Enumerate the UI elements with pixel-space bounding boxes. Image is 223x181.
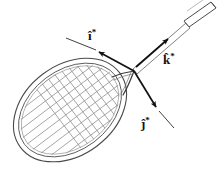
vector-label-j-hat-star: ĵ* xyxy=(141,116,150,130)
label-j-star: * xyxy=(145,115,150,125)
label-k-star: * xyxy=(170,51,175,61)
racket-vector-diagram: î* k̂* ĵ* xyxy=(0,0,223,181)
racket-diagram-canvas xyxy=(0,0,223,181)
label-i-star: * xyxy=(92,27,97,37)
vector-label-i-hat-star: î* xyxy=(88,28,96,42)
vector-label-k-hat-star: k̂* xyxy=(163,52,175,66)
vector-j-hat-star xyxy=(134,71,174,128)
vector-j-hat-star-shaft xyxy=(134,71,156,107)
shaft-body xyxy=(133,23,190,74)
grip-body xyxy=(184,2,216,27)
vector-j-hat-star-tail xyxy=(159,111,174,128)
